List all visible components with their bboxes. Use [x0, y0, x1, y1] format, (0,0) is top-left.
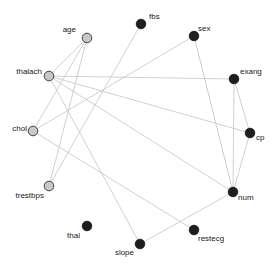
- node-label-exang: exang: [240, 67, 262, 76]
- node-label-age: age: [63, 25, 77, 34]
- node-label-cp: cp: [256, 133, 265, 142]
- edge-cp-num: [233, 133, 250, 192]
- node-thai[interactable]: [82, 221, 92, 231]
- node-trestbps[interactable]: [44, 181, 54, 191]
- node-exang[interactable]: [229, 74, 239, 84]
- edge-thalach-num: [49, 76, 233, 192]
- node-fbs[interactable]: [136, 19, 146, 29]
- node-num[interactable]: [228, 187, 238, 197]
- node-slope[interactable]: [135, 239, 145, 249]
- node-label-chol: chol: [12, 124, 27, 133]
- node-label-restecg: restecg: [198, 234, 224, 243]
- node-age[interactable]: [82, 33, 92, 43]
- edge-exang-num: [233, 79, 234, 192]
- node-label-sex: sex: [198, 24, 210, 33]
- network-graph: agefbssexthalachexangcpcholnumtrestbpsth…: [0, 0, 274, 267]
- edge-age-trestbps: [49, 38, 87, 186]
- node-thalach[interactable]: [44, 71, 54, 81]
- node-chol[interactable]: [28, 126, 38, 136]
- node-label-thalach: thalach: [16, 67, 42, 76]
- node-label-slope: slope: [115, 248, 135, 257]
- node-label-trestbps: trestbps: [16, 191, 44, 200]
- labels-layer: agefbssexthalachexangcpcholnumtrestbpsth…: [12, 12, 265, 257]
- node-label-fbs: fbs: [149, 12, 160, 21]
- node-label-thai: thai: [67, 231, 80, 240]
- edge-chol-restecg: [33, 131, 194, 230]
- edge-sex-num: [194, 36, 233, 192]
- edge-exang-cp: [234, 79, 250, 133]
- node-label-num: num: [238, 193, 254, 202]
- node-cp[interactable]: [245, 128, 255, 138]
- edge-thalach-slope: [49, 76, 140, 244]
- edges-layer: [33, 24, 250, 244]
- edge-thalach-cp: [49, 76, 250, 133]
